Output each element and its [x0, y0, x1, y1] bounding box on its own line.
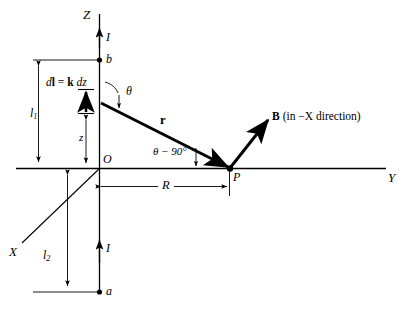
dl-vector-label: dl = k dz	[46, 76, 87, 88]
point-a-marker	[33, 289, 102, 294]
dl-leader-line	[105, 82, 118, 93]
r-dimension-label: R	[158, 178, 174, 193]
point-b-marker	[33, 57, 102, 62]
x-axis	[22, 169, 100, 244]
point-a-label: a	[106, 284, 112, 299]
axis-label-x: X	[9, 244, 17, 260]
theta-minus-90-label: θ − 90°	[153, 145, 187, 157]
point-b-label: b	[106, 52, 112, 67]
l2-label: l2	[43, 248, 50, 263]
b-vector-symbol: B	[272, 110, 280, 122]
current-label-upper: I	[106, 30, 110, 45]
z-dimension-label: z	[79, 131, 83, 143]
dl-label-dz: dz	[74, 76, 87, 88]
r-vector-label: r	[160, 113, 166, 128]
axis-label-z: Z	[83, 7, 90, 23]
current-label-lower: I	[106, 241, 110, 256]
origin-label: O	[103, 152, 112, 167]
point-p-label: P	[233, 170, 240, 185]
dl-label-equals: =	[55, 76, 67, 88]
figure-canvas: Z Y X O b a P I I dl = k dz r B(in −X di…	[0, 0, 410, 309]
b-vector	[230, 120, 268, 168]
axis-label-y: Y	[388, 170, 395, 186]
b-vector-label: B(in −X direction)	[272, 110, 361, 122]
dl-element-arrow	[78, 90, 94, 114]
diagram-svg	[0, 0, 410, 309]
b-vector-note: (in −X direction)	[283, 110, 361, 122]
l1-label: l1	[30, 106, 37, 121]
l2-subscript: 2	[46, 254, 50, 263]
l1-subscript: 1	[33, 112, 37, 121]
theta-label: θ	[126, 84, 132, 99]
